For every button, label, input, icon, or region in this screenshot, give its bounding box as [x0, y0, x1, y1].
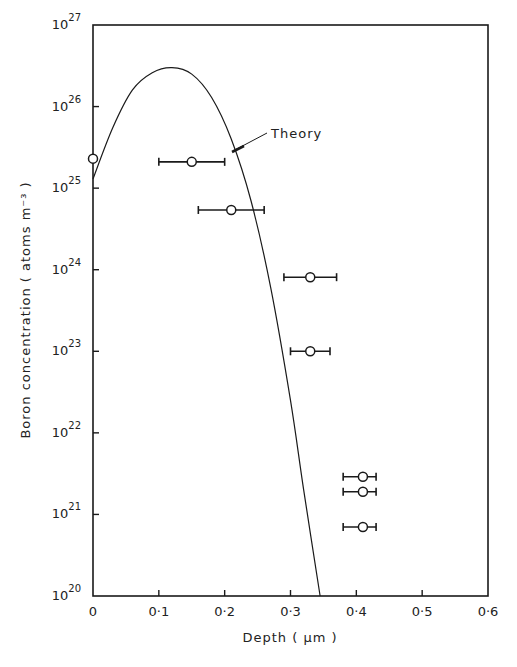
x-tick-label: 0·4: [346, 604, 367, 619]
data-point-marker: [306, 273, 315, 282]
data-point-marker: [358, 487, 367, 496]
y-axis-ticks: 10201021102210231024102510261027: [52, 12, 99, 603]
y-tick-label: 1024: [52, 257, 81, 277]
y-tick-label: 1021: [52, 501, 81, 521]
chart-canvas: 10201021102210231024102510261027 00·10·2…: [0, 0, 517, 667]
data-points: [89, 154, 377, 531]
data-point-marker: [358, 472, 367, 481]
x-axis-title: Depth ( μm ): [242, 630, 337, 645]
y-tick-label: 1022: [52, 420, 81, 440]
y-tick-label: 1020: [52, 583, 81, 603]
theory-label: Theory: [270, 126, 322, 141]
x-tick-label: 0·3: [280, 604, 301, 619]
data-point-marker: [89, 154, 98, 163]
data-point-marker: [306, 347, 315, 356]
x-tick-label: 0·2: [214, 604, 235, 619]
x-tick-label: 0: [89, 604, 97, 619]
x-axis-ticks: 00·10·20·30·40·50·6: [89, 590, 498, 619]
data-point-marker: [358, 523, 367, 532]
y-tick-label: 1023: [52, 338, 81, 358]
y-axis-title: Boron concentration ( atoms m⁻³ ): [18, 181, 33, 438]
y-tick-label: 1027: [52, 12, 81, 32]
data-point-marker: [227, 205, 236, 214]
x-tick-label: 0·6: [478, 604, 499, 619]
y-tick-label: 1026: [52, 94, 81, 114]
theory-curve: [93, 68, 320, 596]
x-tick-label: 0·1: [148, 604, 169, 619]
x-tick-label: 0·5: [412, 604, 433, 619]
data-point-marker: [187, 157, 196, 166]
y-tick-label: 1025: [52, 175, 81, 195]
plot-frame: [93, 25, 488, 596]
